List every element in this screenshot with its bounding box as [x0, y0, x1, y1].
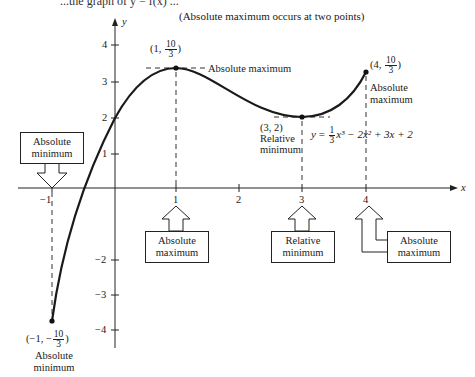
down-arrow-icon	[37, 163, 67, 188]
x-tick-label: 1	[173, 194, 178, 205]
x-tick-label: 4	[363, 194, 368, 205]
x-tick-label: 3	[299, 194, 304, 205]
y-tick-label: −4	[95, 324, 106, 335]
function-curve	[52, 68, 366, 321]
callout-arrows	[37, 163, 412, 252]
y-tick-label: 4	[102, 39, 107, 50]
y-axis-label: y	[122, 16, 127, 27]
x-axis-arrow-icon	[450, 185, 458, 191]
critical-points	[49, 65, 368, 323]
point-label-local-min: (3, 2)Relativeminimum	[260, 122, 301, 155]
point-coord-right-endpoint: (4, 103)	[370, 56, 401, 75]
graph-canvas	[0, 0, 475, 377]
up-arrow-icon	[162, 206, 190, 231]
point-label-right-endpoint: Absolutemaximum	[370, 82, 413, 106]
callout-absolute-maximum-x1: Absolutemaximum	[145, 231, 209, 263]
y-tick-label: 2	[102, 112, 107, 123]
point-right-endpoint	[363, 69, 368, 74]
point-left-endpoint	[49, 318, 54, 323]
callout-absolute-maximum-x4: Absolutemaximum	[387, 231, 451, 263]
up-arrow-icon	[288, 206, 316, 231]
callout-absolute-minimum: Absoluteminimum	[20, 132, 84, 164]
callout-relative-minimum: Relativeminimum	[271, 231, 335, 263]
point-label-local-max: Absolute maximum	[208, 63, 291, 74]
y-tick-label: 1	[102, 148, 107, 159]
y-axis-arrow-icon	[112, 18, 118, 26]
point-coord-local-max: (1, 103)	[150, 40, 181, 59]
note-text: (Absolute maximum occurs at two points)	[179, 11, 364, 22]
x-tick-label: 2	[236, 194, 241, 205]
point-local-min	[299, 114, 304, 119]
point-local-max	[173, 65, 178, 70]
x-tick-label: −1	[40, 194, 51, 205]
y-tick-label: −3	[95, 289, 106, 300]
function-equation: y = 13x³ − 2x² + 3x + 2	[311, 126, 413, 145]
y-tick-label: 3	[102, 76, 107, 87]
point-coord-left-endpoint: (−1, −103)	[26, 330, 69, 349]
x-axis-label: x	[461, 182, 466, 193]
point-label-left-endpoint: Absoluteminimum	[32, 350, 76, 374]
y-tick-label: −2	[95, 254, 106, 265]
dashed-guides	[52, 68, 366, 318]
